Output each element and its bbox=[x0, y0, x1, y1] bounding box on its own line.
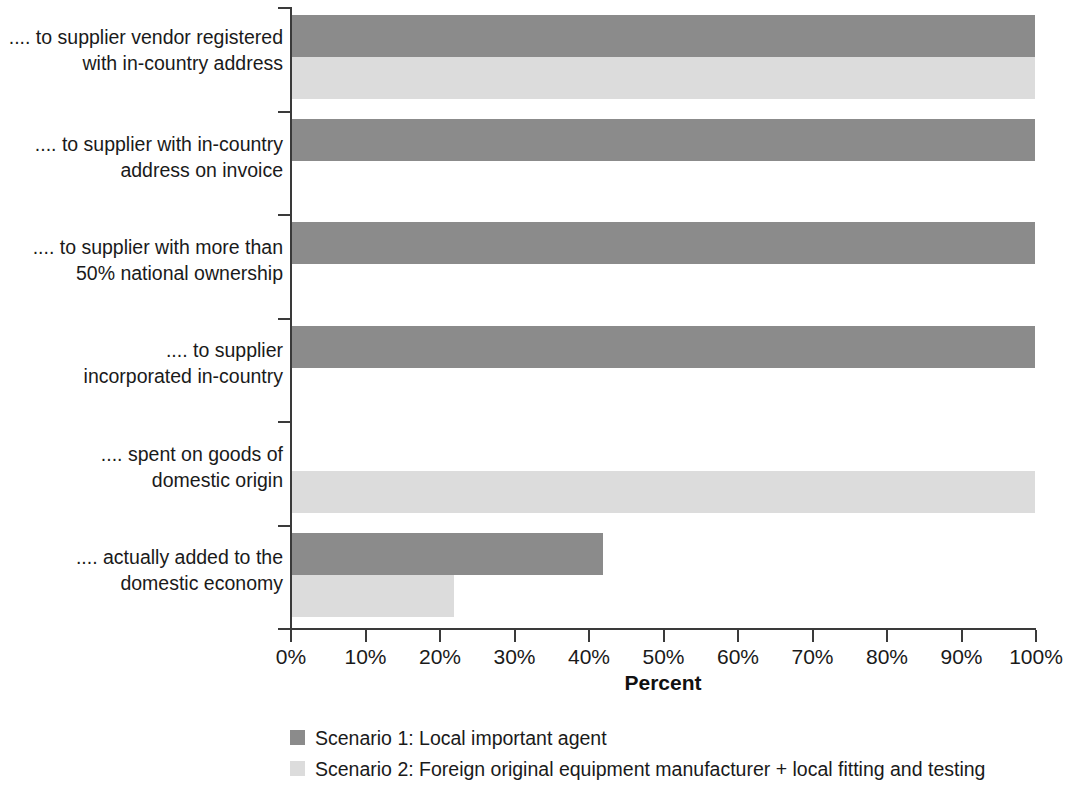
y-axis-tick bbox=[278, 214, 290, 216]
legend-item-scenario-1: Scenario 1: Local important agent bbox=[290, 722, 1070, 753]
y-axis-tick bbox=[278, 7, 290, 9]
bar-series-1-category-2 bbox=[290, 222, 1035, 264]
y-axis-tick bbox=[278, 628, 290, 630]
x-axis-tick bbox=[663, 630, 665, 642]
bar-series-1-category-5 bbox=[290, 533, 603, 575]
category-label-4-line-0: .... spent on goods of bbox=[0, 441, 283, 467]
category-label-2-line-0: .... to supplier with more than bbox=[0, 234, 283, 260]
category-label-2-line-1: 50% national ownership bbox=[0, 260, 283, 286]
x-axis-tick bbox=[514, 630, 516, 642]
category-label-5-line-0: .... actually added to the bbox=[0, 544, 283, 570]
bar-series-1-category-1 bbox=[290, 119, 1035, 161]
legend-item-scenario-2: Scenario 2: Foreign original equipment m… bbox=[290, 753, 1070, 784]
bar-series-2-category-0 bbox=[290, 57, 1035, 99]
category-label-4-line-1: domestic origin bbox=[0, 467, 283, 493]
bar-series-1-category-0 bbox=[290, 15, 1035, 57]
x-axis-tick bbox=[588, 630, 590, 642]
y-axis-tick bbox=[278, 111, 290, 113]
plot-area bbox=[290, 7, 1035, 628]
x-axis-tick-label: 30% bbox=[493, 645, 535, 669]
y-axis-tick bbox=[278, 421, 290, 423]
x-axis-title: Percent bbox=[290, 671, 1036, 695]
x-axis-tick bbox=[290, 630, 292, 642]
category-label-5: .... actually added to the domestic econ… bbox=[0, 544, 283, 596]
category-label-1-line-1: address on invoice bbox=[0, 157, 283, 183]
category-label-5-line-1: domestic economy bbox=[0, 570, 283, 596]
y-axis-line bbox=[290, 7, 292, 629]
x-axis-tick bbox=[812, 630, 814, 642]
x-axis-tick bbox=[961, 630, 963, 642]
x-axis-tick-label: 0% bbox=[276, 645, 306, 669]
bar-chart: .... to supplier vendor registered with … bbox=[0, 0, 1071, 786]
x-axis-tick-label: 80% bbox=[866, 645, 908, 669]
legend-label-scenario-2: Scenario 2: Foreign original equipment m… bbox=[315, 757, 985, 781]
category-label-2: .... to supplier with more than 50% nati… bbox=[0, 234, 283, 286]
legend-swatch-icon-scenario-1 bbox=[290, 730, 305, 745]
x-axis-tick-label: 90% bbox=[940, 645, 982, 669]
chart-legend: Scenario 1: Local important agent Scenar… bbox=[290, 722, 1070, 784]
category-label-4: .... spent on goods of domestic origin bbox=[0, 441, 283, 493]
x-axis-tick-label: 100% bbox=[1009, 645, 1063, 669]
x-axis-tick-label: 40% bbox=[568, 645, 610, 669]
bar-series-1-category-3 bbox=[290, 326, 1035, 368]
x-axis-tick bbox=[1035, 630, 1037, 642]
category-label-0-line-1: with in-country address bbox=[0, 50, 283, 76]
legend-label-scenario-1: Scenario 1: Local important agent bbox=[315, 726, 607, 750]
x-axis-tick bbox=[365, 630, 367, 642]
category-label-3-line-1: incorporated in-country bbox=[0, 363, 283, 389]
bar-series-2-category-4 bbox=[290, 471, 1035, 513]
y-axis-tick bbox=[278, 318, 290, 320]
legend-swatch-icon-scenario-2 bbox=[290, 761, 305, 776]
y-axis-tick bbox=[278, 525, 290, 527]
x-axis-tick bbox=[737, 630, 739, 642]
x-axis-tick-label: 50% bbox=[642, 645, 684, 669]
category-label-1: .... to supplier with in-country address… bbox=[0, 131, 283, 183]
x-axis-tick-label: 20% bbox=[419, 645, 461, 669]
x-axis-tick bbox=[886, 630, 888, 642]
category-label-3-line-0: .... to supplier bbox=[0, 337, 283, 363]
bar-series-2-category-5 bbox=[290, 575, 454, 617]
category-label-1-line-0: .... to supplier with in-country bbox=[0, 131, 283, 157]
x-axis-tick-label: 70% bbox=[791, 645, 833, 669]
category-label-0: .... to supplier vendor registered with … bbox=[0, 24, 283, 76]
x-axis-tick-label: 60% bbox=[717, 645, 759, 669]
x-axis-tick bbox=[439, 630, 441, 642]
category-label-3: .... to supplier incorporated in-country bbox=[0, 337, 283, 389]
x-axis-tick-label: 10% bbox=[344, 645, 386, 669]
category-label-0-line-0: .... to supplier vendor registered bbox=[0, 24, 283, 50]
